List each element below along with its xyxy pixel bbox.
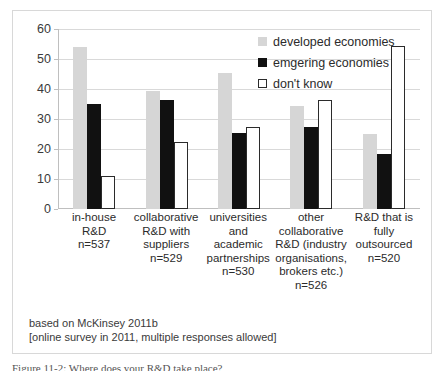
- x-axis-category-labels: in-house R&Dn=537collaborativeR&D withsu…: [58, 211, 420, 292]
- x-label-line: organisations,: [275, 252, 347, 266]
- x-label-group-1: in-house R&Dn=537: [58, 211, 130, 292]
- x-label-line: other: [275, 211, 347, 225]
- x-label-line: partnerships: [203, 252, 273, 266]
- bar-g3-emerging: [232, 133, 246, 210]
- bar-g5-developed: [363, 134, 377, 209]
- gridline-30: [58, 119, 420, 120]
- y-tick-label-60: 60: [37, 22, 51, 36]
- bar-g3-developed: [218, 73, 232, 210]
- bar-g2-emerging: [160, 100, 174, 210]
- x-label-line: universities: [203, 211, 273, 225]
- x-label-group-4: othercollaborativeR&D (industryorganisat…: [274, 211, 348, 292]
- bar-g5-emerging: [377, 154, 391, 210]
- bar-g1-developed: [73, 47, 87, 209]
- plot-area: 0102030405060 developed economiesemgerin…: [58, 29, 420, 209]
- x-label-group-3: universitiesand academicpartnershipsn=53…: [202, 211, 274, 292]
- legend-item-emerging[interactable]: emgering economies: [258, 52, 428, 73]
- legend-label-dontknow: don't know: [273, 77, 332, 91]
- chart-legend: developed economiesemgering economiesdon…: [258, 31, 428, 94]
- x-label-line: n=530: [203, 265, 273, 279]
- y-axis-line: [58, 29, 59, 209]
- y-tick-mark-0: [54, 209, 58, 210]
- source-note-line-1: based on McKinsey 2011b: [29, 316, 276, 330]
- y-tick-label-0: 0: [44, 202, 51, 216]
- x-label-line: collaborative: [275, 225, 347, 239]
- x-label-line: R&D (industry: [275, 238, 347, 252]
- y-tick-mark-20: [54, 149, 58, 150]
- bar-g4-dontknow: [318, 100, 332, 210]
- x-label-line: and academic: [203, 225, 273, 252]
- legend-label-developed: developed economies: [273, 35, 395, 49]
- legend-item-dontknow[interactable]: don't know: [258, 73, 428, 94]
- x-label-line: R&D with: [131, 225, 201, 239]
- bar-g4-developed: [290, 106, 304, 210]
- y-tick-mark-40: [54, 89, 58, 90]
- y-tick-mark-50: [54, 59, 58, 60]
- x-label-line: brokers etc.): [275, 265, 347, 279]
- legend-swatch-developed-icon: [258, 37, 267, 46]
- bar-g3-dontknow: [246, 127, 260, 210]
- legend-label-emerging: emgering economies: [273, 56, 389, 70]
- y-tick-label-40: 40: [37, 82, 51, 96]
- figure-bar-chart: 0102030405060 developed economiesemgerin…: [0, 0, 445, 371]
- y-tick-mark-30: [54, 119, 58, 120]
- bar-g2-dontknow: [174, 142, 188, 210]
- legend-swatch-dontknow-icon: [258, 79, 267, 88]
- y-tick-mark-60: [54, 29, 58, 30]
- source-note: based on McKinsey 2011b [online survey i…: [29, 316, 276, 344]
- y-tick-mark-10: [54, 179, 58, 180]
- legend-item-developed[interactable]: developed economies: [258, 31, 428, 52]
- x-label-line: fully: [349, 225, 419, 239]
- figure-caption: Figure 11-2: Where does your R&D take pl…: [12, 362, 432, 371]
- x-label-line: n=526: [275, 279, 347, 293]
- chart-frame: 0102030405060 developed economiesemgerin…: [12, 10, 432, 354]
- x-label-group-2: collaborativeR&D withsuppliersn=529: [130, 211, 202, 292]
- bar-g4-emerging: [304, 127, 318, 210]
- x-label-line: in-house R&D: [59, 211, 129, 238]
- x-label-line: outsourced: [349, 238, 419, 252]
- y-tick-label-10: 10: [37, 172, 51, 186]
- x-label-group-5: R&D that isfullyoutsourcedn=520: [348, 211, 420, 292]
- bar-g1-dontknow: [101, 176, 115, 209]
- gridline-60: [58, 29, 420, 30]
- x-label-line: n=537: [59, 238, 129, 252]
- x-label-line: n=529: [131, 252, 201, 266]
- x-label-line: R&D that is: [349, 211, 419, 225]
- y-tick-label-20: 20: [37, 142, 51, 156]
- bar-g1-emerging: [87, 104, 101, 209]
- x-label-line: suppliers: [131, 238, 201, 252]
- legend-swatch-emerging-icon: [258, 58, 267, 67]
- bar-g2-developed: [146, 91, 160, 210]
- source-note-line-2: [online survey in 2011, multiple respons…: [29, 330, 276, 344]
- y-tick-label-30: 30: [37, 112, 51, 126]
- y-tick-label-50: 50: [37, 52, 51, 66]
- x-label-line: n=520: [349, 252, 419, 266]
- x-label-line: collaborative: [131, 211, 201, 225]
